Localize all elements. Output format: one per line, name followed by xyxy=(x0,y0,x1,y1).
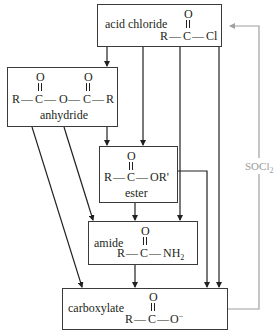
bond: — xyxy=(169,30,181,42)
carbonyl-carbon: C xyxy=(148,313,156,325)
double-bond xyxy=(129,162,133,170)
substituent: NH2 xyxy=(163,247,184,261)
r-group: R xyxy=(125,313,133,325)
node-carboxylate: carboxylate O R — C — O− xyxy=(62,288,228,330)
charge: − xyxy=(179,312,184,321)
carbonyl-carbon: C xyxy=(183,30,191,42)
bond: — xyxy=(126,247,138,259)
double-bond xyxy=(38,83,42,91)
carbonyl-carbon: C xyxy=(140,247,148,259)
carbonyl-oxygen: O xyxy=(84,71,93,83)
carbonyl-carbon: C xyxy=(127,171,135,183)
bond: — xyxy=(68,93,80,105)
bond: — xyxy=(136,171,148,183)
bond: — xyxy=(21,93,33,105)
arrow-anhydride-carboxylate xyxy=(32,127,82,287)
bond: — xyxy=(149,247,161,259)
r-group: R xyxy=(160,30,168,42)
carbonyl-oxygen: O xyxy=(184,8,193,20)
bond: — xyxy=(134,313,146,325)
carbonyl-oxygen: O xyxy=(36,71,45,83)
bridging-oxygen: O xyxy=(59,93,68,105)
substituent: Cl xyxy=(206,30,217,42)
arrow-anhydride-amide xyxy=(64,127,93,220)
carbonyl-carbon: C xyxy=(83,93,91,105)
bond: — xyxy=(92,93,104,105)
bond: — xyxy=(157,313,169,325)
node-ester: O R — C — OR' ester xyxy=(99,146,178,203)
node-label: acid chloride xyxy=(105,18,167,30)
r-group: R xyxy=(12,93,20,105)
reagent-label-socl2: SOCl2 xyxy=(245,158,273,174)
reagent-subscript: 2 xyxy=(269,166,273,175)
double-bond xyxy=(151,303,155,311)
amine-group: NH xyxy=(163,246,180,260)
substituent: O− xyxy=(170,313,183,327)
bond: — xyxy=(44,93,56,105)
r-group: R xyxy=(104,171,112,183)
node-amide: amide O R — C — NH2 xyxy=(88,221,198,265)
node-anhydride: O O R — C — O — C — R anhydride xyxy=(7,67,118,127)
node-label: carboxylate xyxy=(68,302,124,314)
bond: — xyxy=(192,30,204,42)
reagent-main: SOCl xyxy=(245,160,269,172)
node-label: ester xyxy=(125,187,148,199)
r-group: R xyxy=(106,93,114,105)
double-bond xyxy=(86,83,90,91)
r-group: R xyxy=(117,247,125,259)
carbonyl-oxygen: O xyxy=(141,225,150,237)
substituent: OR' xyxy=(150,171,169,183)
oxide: O xyxy=(170,312,179,326)
double-bond xyxy=(143,237,147,245)
carbonyl-carbon: C xyxy=(35,93,43,105)
carbonyl-oxygen: O xyxy=(149,291,158,303)
carbonyl-oxygen: O xyxy=(127,150,136,162)
node-label: anhydride xyxy=(40,109,88,121)
bond: — xyxy=(113,171,125,183)
node-acid-chloride: acid chloride O R — C — Cl xyxy=(97,4,222,47)
double-bond xyxy=(186,20,190,28)
subscript: 2 xyxy=(180,253,184,262)
